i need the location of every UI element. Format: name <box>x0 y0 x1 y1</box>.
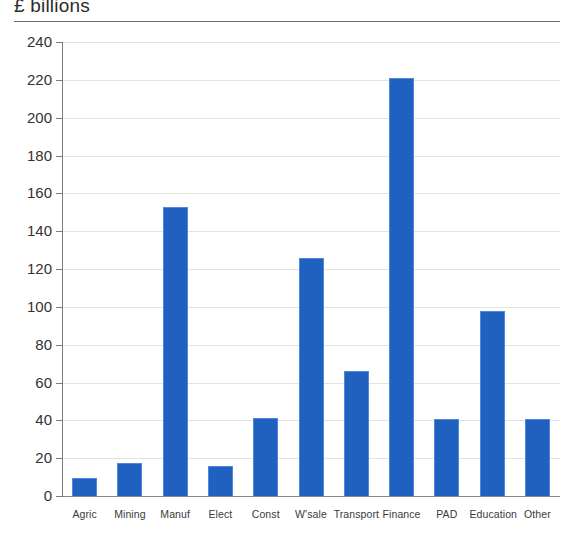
y-axis-tick-label: 60 <box>0 374 52 391</box>
y-axis-tick-label: 240 <box>0 33 52 50</box>
plot-area <box>62 42 560 496</box>
bar <box>480 311 505 496</box>
bar <box>299 258 324 496</box>
x-axis-tick-label: Transport <box>334 508 379 520</box>
x-axis-tick-label: Other <box>515 508 560 520</box>
y-axis-tick-label: 160 <box>0 184 52 201</box>
bar <box>389 78 414 496</box>
bar <box>117 463 142 496</box>
bar <box>208 466 233 496</box>
y-axis-tick-label: 220 <box>0 71 52 88</box>
y-axis-tick-label: 140 <box>0 222 52 239</box>
x-axis-tick-label: Education <box>469 508 514 520</box>
bar <box>525 419 550 496</box>
title-divider <box>14 21 560 22</box>
y-axis-tick-label: 20 <box>0 449 52 466</box>
y-axis-tick <box>56 496 63 497</box>
y-axis-tick-label: 40 <box>0 411 52 428</box>
bar <box>163 207 188 496</box>
y-axis-tick-label: 0 <box>0 487 52 504</box>
x-axis-baseline <box>62 496 560 497</box>
y-axis-tick-label: 180 <box>0 147 52 164</box>
y-axis-tick-label: 100 <box>0 298 52 315</box>
x-axis-tick-label: Const <box>243 508 288 520</box>
y-axis-tick-label: 200 <box>0 109 52 126</box>
chart-title: £ billions <box>14 0 90 18</box>
x-axis-tick-label: PAD <box>424 508 469 520</box>
x-axis-tick-label: Mining <box>107 508 152 520</box>
x-axis-tick-label: Elect <box>198 508 243 520</box>
y-axis-tick-label: 120 <box>0 260 52 277</box>
x-axis-tick-label: W'sale <box>288 508 333 520</box>
bar <box>434 419 459 496</box>
x-axis-tick-label: Finance <box>379 508 424 520</box>
x-axis-tick-label: Agric <box>62 508 107 520</box>
bar <box>344 371 369 496</box>
bar <box>253 418 278 497</box>
x-axis-tick-label: Manuf <box>153 508 198 520</box>
y-axis-tick-label: 80 <box>0 336 52 353</box>
chart-screenshot: £ billions 02040608010012014016018020022… <box>0 0 574 541</box>
bar <box>72 478 97 496</box>
